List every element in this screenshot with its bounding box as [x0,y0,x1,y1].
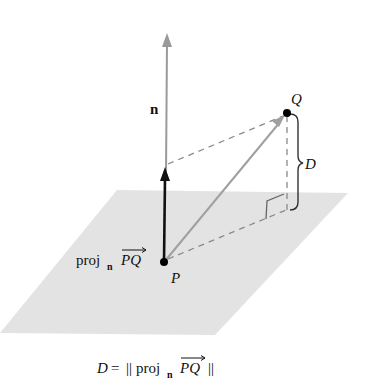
label-p: P [170,270,180,286]
svg-text:proj: proj [136,360,160,376]
normal-arrowhead-icon [162,33,172,47]
label-d: D [304,156,316,172]
svg-text:=: = [111,360,119,376]
svg-text:||: || [126,360,132,376]
projection-arrowhead-icon [160,167,170,181]
plane [0,190,348,335]
svg-text:PQ: PQ [120,252,141,268]
svg-text:n: n [167,369,173,380]
svg-text:proj: proj [76,252,100,268]
label-q: Q [291,91,302,107]
diagram-canvas: n Q P D proj n PQ D = || proj n PQ || [0,0,367,388]
point-q [283,109,291,117]
svg-text:D: D [96,360,108,376]
label-n: n [150,101,159,117]
svg-text:||: || [208,360,214,376]
projection-vector [164,178,165,262]
svg-text:PQ: PQ [179,360,200,376]
vector-pq-arrowhead-icon [272,115,285,127]
svg-text:n: n [107,261,113,272]
formula: D = || proj n PQ || [96,356,214,381]
point-p [160,258,168,266]
normal-vector-n [166,42,167,175]
